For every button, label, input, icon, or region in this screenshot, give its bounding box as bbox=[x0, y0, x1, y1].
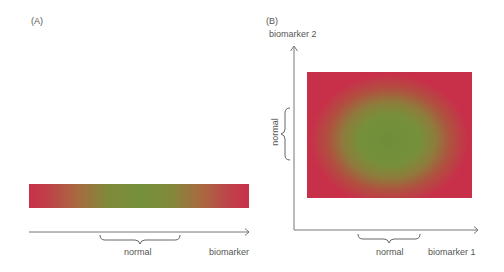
panel-b-normal-x-label: normal bbox=[376, 247, 404, 257]
panel-a-x-axis-label: biomarker bbox=[209, 247, 249, 257]
panel-b-axes bbox=[291, 46, 479, 234]
panel-a-normal-brace bbox=[100, 235, 180, 244]
panel-a-x-axis bbox=[29, 229, 249, 236]
axes-and-braces bbox=[0, 0, 504, 272]
panel-b-normal-y-label: normal bbox=[270, 112, 280, 152]
panel-b-normal-x-brace bbox=[358, 234, 420, 243]
panel-b-x-axis-label: biomarker 1 bbox=[428, 247, 476, 257]
panel-b-normal-y-brace bbox=[281, 108, 290, 160]
panel-a-normal-label: normal bbox=[124, 247, 152, 257]
